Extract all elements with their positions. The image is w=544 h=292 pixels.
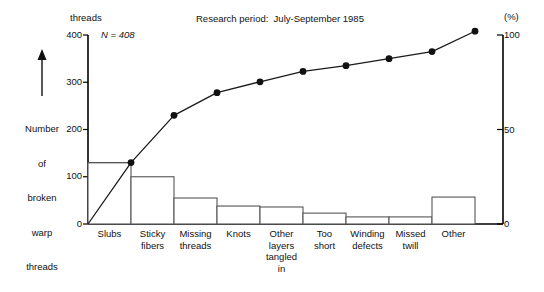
- cumulative-marker-0: [128, 159, 135, 166]
- cumulative-marker-4: [300, 68, 307, 75]
- bar-4: [260, 207, 303, 224]
- cumulative-marker-1: [171, 112, 178, 119]
- x-axis-label-8-line-0: Other: [420, 228, 487, 240]
- bar-5: [303, 213, 346, 224]
- bar-1: [131, 177, 174, 224]
- bar-3: [217, 206, 260, 224]
- cumulative-marker-2: [214, 89, 221, 96]
- pareto-chart-figure: threads Research period: July-September …: [0, 0, 544, 292]
- cumulative-marker-7: [429, 48, 436, 55]
- bar-7: [389, 217, 432, 224]
- bar-2: [174, 198, 217, 224]
- cumulative-marker-3: [257, 78, 264, 85]
- cumulative-marker-5: [343, 62, 350, 69]
- x-axis-label-4-line-2: tangled: [248, 251, 315, 263]
- x-axis-label-7-line-1: twill: [377, 240, 444, 252]
- bar-6: [346, 217, 389, 224]
- cumulative-marker-8: [472, 28, 479, 35]
- x-axis-category-labels: SlubsStickyfibersMissingthreadsKnotsOthe…: [0, 228, 544, 292]
- cumulative-marker-6: [386, 55, 393, 62]
- bar-8: [432, 197, 475, 224]
- x-axis-label-4-line-3: in: [248, 263, 315, 275]
- x-axis-label-8: Other: [420, 228, 487, 240]
- x-axis-label-2-line-1: threads: [162, 240, 229, 252]
